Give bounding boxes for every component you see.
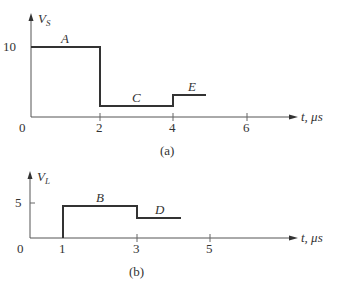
y-axis-label-b: VL	[37, 169, 50, 186]
x-tick-label-2: 2	[96, 120, 103, 135]
y-axis-arrow-icon	[28, 171, 33, 179]
x-tick-label-6: 6	[243, 120, 250, 135]
x-tick-label-5: 5	[206, 241, 213, 256]
waveform-diagram: VS 10 0 2 4 6 t, μs A C E (a) VL 5 0 1 3…	[0, 0, 337, 281]
x-tick-label-0: 0	[19, 120, 26, 135]
waveform-vs	[31, 47, 206, 106]
chart-a: VS 10 0 2 4 6 t, μs A C E (a)	[3, 11, 323, 158]
caption-a: (a)	[160, 143, 174, 158]
x-tick-label-3: 3	[133, 241, 140, 256]
x-axis-arrow-icon	[289, 236, 298, 241]
x-tick-label-1: 1	[59, 241, 66, 256]
segment-label-b: B	[96, 190, 104, 205]
segment-label-e: E	[187, 79, 196, 94]
x-tick-label-0: 0	[17, 241, 24, 256]
caption-b: (b)	[129, 264, 144, 279]
segment-label-a: A	[60, 31, 69, 46]
chart-b: VL 5 0 1 3 5 t, μs B D (b)	[15, 169, 323, 279]
y-tick-label-5: 5	[15, 195, 22, 210]
y-tick-label-10: 10	[3, 39, 16, 54]
x-axis-arrow-icon	[289, 115, 298, 120]
segment-label-c: C	[132, 90, 141, 105]
y-axis-label-a: VS	[38, 11, 51, 28]
segment-label-d: D	[154, 202, 165, 217]
x-tick-label-4: 4	[169, 120, 176, 135]
y-axis-arrow-icon	[29, 13, 34, 21]
x-axis-label-a: t, μs	[301, 109, 323, 124]
x-axis-label-b: t, μs	[301, 230, 323, 245]
